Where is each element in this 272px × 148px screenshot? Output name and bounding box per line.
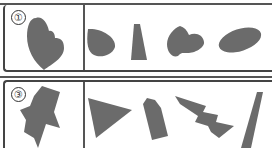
shapes-layer (0, 0, 272, 148)
choice-drop (87, 29, 115, 56)
choice-pentagon (143, 98, 168, 140)
choice-lightning (175, 96, 234, 138)
target-shape-1 (27, 18, 64, 70)
choice-heart (167, 26, 204, 56)
choice-parallelogram (241, 92, 263, 148)
choice-trapezoid (131, 24, 147, 60)
choice-triangle (88, 98, 132, 138)
target-shape-3 (20, 86, 60, 148)
choice-ellipse (216, 23, 265, 58)
